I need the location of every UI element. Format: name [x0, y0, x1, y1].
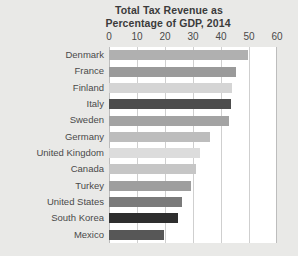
bar-row: United States	[0, 194, 298, 210]
x-axis-tick-labels: 0102030405060	[0, 31, 298, 45]
bar-row: Italy	[0, 96, 298, 112]
x-tick-label: 60	[271, 31, 282, 42]
category-label: Mexico	[0, 227, 104, 243]
x-tick-label: 10	[131, 31, 142, 42]
bar	[109, 213, 178, 223]
category-label: Canada	[0, 161, 104, 177]
category-label: South Korea	[0, 210, 104, 226]
category-label: Finland	[0, 80, 104, 96]
bar	[109, 132, 210, 142]
bar-row: Sweden	[0, 112, 298, 128]
bar	[109, 148, 200, 158]
category-label: Sweden	[0, 112, 104, 128]
bar	[109, 164, 196, 174]
bar	[109, 83, 232, 93]
category-label: Italy	[0, 96, 104, 112]
bar-rows: DenmarkFranceFinlandItalySwedenGermanyUn…	[0, 47, 298, 243]
x-tick-label: 20	[159, 31, 170, 42]
bar	[109, 116, 229, 126]
x-tick-label: 40	[215, 31, 226, 42]
bar	[109, 67, 236, 77]
chart-title-line-2: Percentage of GDP, 2014	[0, 17, 298, 30]
bar-row: Finland	[0, 80, 298, 96]
category-label: Turkey	[0, 178, 104, 194]
chart-title: Total Tax Revenue as Percentage of GDP, …	[0, 4, 298, 30]
bar	[109, 230, 164, 240]
bar	[109, 99, 231, 109]
category-label: United Kingdom	[0, 145, 104, 161]
bar-row: Canada	[0, 161, 298, 177]
category-label: Germany	[0, 129, 104, 145]
category-label: France	[0, 63, 104, 79]
x-tick-label: 30	[187, 31, 198, 42]
bar-row: Mexico	[0, 227, 298, 243]
bar-row: South Korea	[0, 210, 298, 226]
bar-row: Turkey	[0, 178, 298, 194]
bar-row: Germany	[0, 129, 298, 145]
bar	[109, 50, 248, 60]
bar	[109, 181, 191, 191]
category-label: Denmark	[0, 47, 104, 63]
x-tick-label: 50	[243, 31, 254, 42]
bar-row: United Kingdom	[0, 145, 298, 161]
chart-title-line-1: Total Tax Revenue as	[0, 4, 298, 17]
bar-row: Denmark	[0, 47, 298, 63]
tax-revenue-bar-chart: Total Tax Revenue as Percentage of GDP, …	[0, 0, 298, 256]
bar-row: France	[0, 63, 298, 79]
category-label: United States	[0, 194, 104, 210]
bar	[109, 197, 182, 207]
x-tick-label: 0	[106, 31, 112, 42]
